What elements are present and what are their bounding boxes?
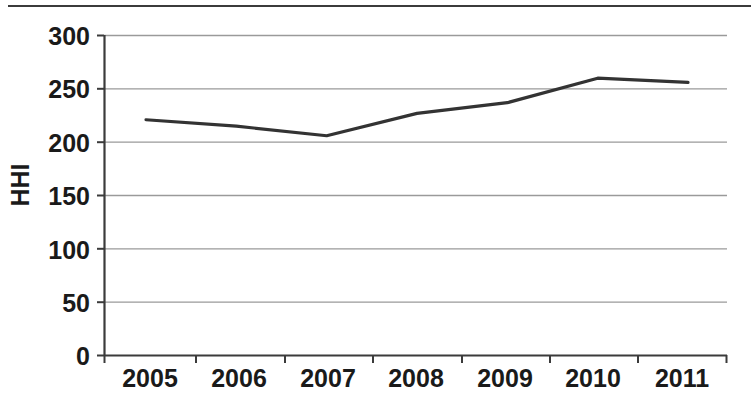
- x-tick-label-2010: 2010: [547, 364, 639, 393]
- y-tick-label-100: 100: [12, 236, 90, 265]
- x-tick-label-2011: 2011: [636, 364, 728, 393]
- x-tick-label-2005: 2005: [104, 364, 196, 393]
- y-tick-label-0: 0: [12, 342, 90, 371]
- x-tick-label-2006: 2006: [193, 364, 285, 393]
- line-chart-plot: [0, 0, 751, 412]
- y-tick-label-150: 150: [12, 182, 90, 211]
- data-series-hhi: [146, 78, 688, 136]
- gridlines: [104, 36, 727, 303]
- x-tick-label-2007: 2007: [282, 364, 374, 393]
- y-axis-ticks: [97, 36, 104, 356]
- y-tick-label-300: 300: [12, 22, 90, 51]
- x-tick-label-2009: 2009: [459, 364, 551, 393]
- y-tick-label-250: 250: [12, 75, 90, 104]
- chart-figure: HHI 300 250 200 150 100 50 0 2005 2006 2…: [0, 0, 751, 412]
- x-tick-label-2008: 2008: [370, 364, 462, 393]
- y-tick-label-200: 200: [12, 129, 90, 158]
- y-tick-label-50: 50: [12, 289, 90, 318]
